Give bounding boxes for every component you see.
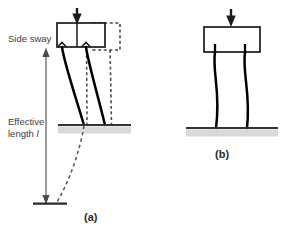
displaced-column-inner-dashed bbox=[87, 50, 88, 125]
panel-b-group bbox=[186, 9, 278, 137]
column-right-a bbox=[86, 47, 105, 125]
column-right-b bbox=[244, 52, 248, 128]
effective-length-line1: Effective bbox=[8, 116, 44, 127]
ground-shadow-a bbox=[58, 127, 131, 134]
label-side-sway: Side sway bbox=[8, 33, 51, 45]
beam-b bbox=[204, 27, 260, 52]
load-arrow-b bbox=[226, 9, 235, 27]
column-left-b bbox=[214, 52, 217, 128]
figure-label-b: (b) bbox=[215, 148, 229, 161]
figure-label-a: (a) bbox=[84, 211, 97, 224]
ground-shadow-b bbox=[186, 130, 278, 137]
inflection-extension-dashed-a bbox=[57, 126, 84, 202]
column-left-a bbox=[62, 47, 84, 125]
displaced-column-dashed bbox=[110, 50, 112, 125]
effective-length-symbol: l bbox=[37, 128, 39, 139]
figure-canvas: Side sway Effectivelength l (a) (b) bbox=[0, 0, 284, 237]
beam-a bbox=[57, 23, 105, 47]
effective-length-line2: length bbox=[8, 128, 34, 139]
label-effective-length: Effectivelength l bbox=[8, 116, 44, 139]
load-arrow-a bbox=[72, 8, 81, 25]
